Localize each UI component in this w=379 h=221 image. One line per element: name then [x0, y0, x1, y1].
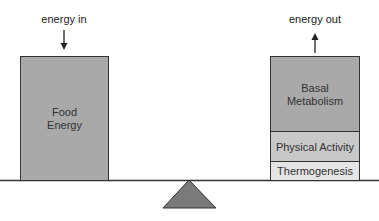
- food-energy-box: Food Energy: [20, 56, 109, 181]
- arrow-up-icon: [312, 33, 319, 53]
- fulcrum-triangle: [163, 180, 216, 208]
- basal-metabolism-box: Basal Metabolism: [270, 56, 360, 133]
- food-energy-label: Food Energy: [47, 106, 82, 132]
- basal-metabolism-label: Basal Metabolism: [287, 82, 343, 108]
- physical-activity-label: Physical Activity: [276, 141, 354, 154]
- thermogenesis-label: Thermogenesis: [277, 165, 353, 178]
- energy-in-label: energy in: [34, 13, 94, 25]
- energy-out-label: energy out: [280, 13, 350, 25]
- thermogenesis-box: Thermogenesis: [270, 161, 360, 181]
- physical-activity-box: Physical Activity: [270, 131, 360, 163]
- arrow-down-icon: [61, 30, 68, 50]
